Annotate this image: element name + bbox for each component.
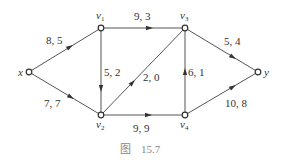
node-label-v2: v2 bbox=[96, 118, 105, 132]
node-x bbox=[26, 69, 32, 75]
node-label-x: x bbox=[17, 66, 23, 78]
edge-label-v3-y: 5, 4 bbox=[224, 35, 241, 47]
node-label-y: y bbox=[263, 66, 269, 78]
arrow-v1-v3-icon bbox=[146, 26, 153, 30]
arrow-x-v2-icon bbox=[67, 94, 75, 101]
node-v3 bbox=[182, 25, 188, 31]
edge-x-v1 bbox=[29, 28, 101, 72]
arrow-v4-v3-icon bbox=[183, 68, 187, 75]
arrow-x-v1-icon bbox=[66, 43, 74, 50]
edge-label-v2-v4: 9, 9 bbox=[133, 122, 150, 134]
node-label-v4: v4 bbox=[180, 118, 189, 132]
arrow-v4-y-icon bbox=[229, 83, 237, 90]
flow-network-diagram: 8, 5 7, 7 9, 3 5, 2 2, 0 6, 1 9, 9 5, 4 … bbox=[0, 0, 284, 166]
arrow-v1-v2-icon bbox=[99, 85, 103, 92]
arrow-v2-v4-icon bbox=[145, 113, 152, 117]
edge-label-x-v2: 7, 7 bbox=[44, 97, 61, 109]
edge-label-v4-y: 10, 8 bbox=[225, 97, 248, 109]
edge-label-v1-v2: 5, 2 bbox=[104, 66, 121, 78]
edge-x-v2 bbox=[29, 72, 101, 115]
node-v2 bbox=[98, 112, 104, 118]
node-v4 bbox=[182, 112, 188, 118]
edge-label-v1-v3: 9, 3 bbox=[134, 10, 151, 22]
node-label-v1: v1 bbox=[96, 9, 105, 23]
node-label-v3: v3 bbox=[180, 9, 189, 23]
edge-label-x-v1: 8, 5 bbox=[46, 34, 63, 46]
node-y bbox=[255, 69, 261, 75]
edge-v4-y bbox=[185, 72, 258, 115]
edge-label-v2-v3: 2, 0 bbox=[143, 71, 160, 83]
figure-caption: 图15.7 bbox=[120, 143, 161, 155]
node-v1 bbox=[98, 25, 104, 31]
edge-label-v4-v3: 6, 1 bbox=[188, 66, 205, 78]
